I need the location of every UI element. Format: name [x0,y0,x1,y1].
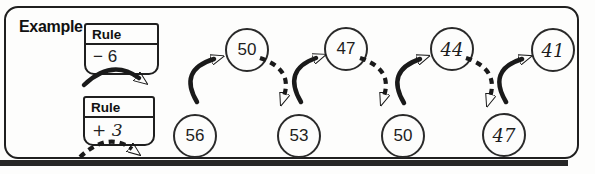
rule-box-minus-6: Rule − 6 [84,23,159,75]
example-frame: Example Rule − 6 Rule + 3 56 50 53 47 50… [4,6,579,159]
circle-value: 47 [493,125,516,146]
worksheet-example-panel: Example Rule − 6 Rule + 3 56 50 53 47 50… [0,0,595,174]
rule-box-header: Rule [85,98,153,118]
number-circle-50-top-1: 50 [225,28,269,72]
rule-box-plus-3: Rule + 3 [83,96,155,146]
number-circle-56: 56 [173,114,217,158]
rule-box-value: − 6 [86,45,157,67]
number-circle-47-handwritten: 47 [482,113,526,157]
number-circle-41-handwritten: 41 [531,28,575,72]
circle-value: 47 [337,39,356,59]
number-circle-44-handwritten: 44 [430,27,474,71]
circle-value: 53 [290,126,309,146]
rule-box-value: + 3 [85,118,153,140]
example-label: Example [19,18,83,36]
number-circle-53: 53 [277,114,321,158]
circle-value: 44 [441,39,464,60]
number-circle-47-top: 47 [324,27,368,71]
circle-value: 50 [238,40,257,60]
circle-value: 50 [394,126,413,146]
bottom-rule-line [0,160,568,166]
rule-box-header: Rule [86,25,157,45]
circle-value: 56 [186,126,205,146]
circle-value: 41 [542,40,565,61]
number-circle-50-bottom: 50 [381,114,425,158]
